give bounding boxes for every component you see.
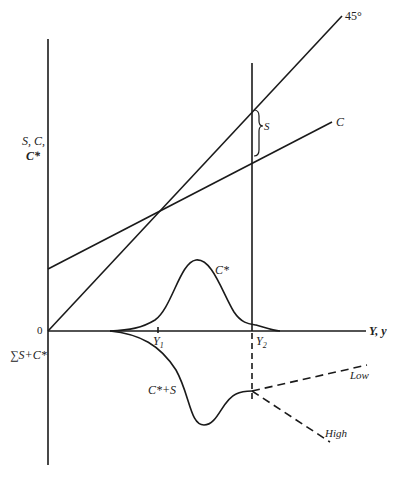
x-axis-label: Y, y — [369, 325, 387, 337]
diagram-svg — [0, 0, 397, 478]
cstar-plus-s-label: C*+S — [148, 384, 176, 396]
high-label: High — [325, 428, 347, 439]
y1-subscript: 1 — [160, 341, 164, 350]
cstar-plus-s-curve — [110, 331, 252, 425]
origin-label: 0 — [37, 325, 43, 336]
cstar-label: C* — [215, 264, 229, 276]
y-axis-label-2: C* — [26, 150, 40, 162]
high-dashed-line — [252, 391, 330, 442]
consumption-line — [48, 122, 332, 269]
saving-brace — [254, 110, 263, 156]
cstar-curve — [110, 260, 280, 331]
consumption-label: C — [336, 116, 344, 128]
line-45-label: 45° — [345, 10, 362, 22]
y2-subscript: 2 — [263, 341, 267, 350]
y2-label: Y2 — [256, 335, 267, 350]
y2-text: Y — [256, 334, 263, 348]
y1-label: Y1 — [153, 335, 164, 350]
y-axis-label-1: S, C, — [22, 135, 45, 147]
low-label: Low — [350, 370, 369, 381]
line-45-degree — [48, 16, 342, 331]
saving-label: S — [264, 121, 270, 132]
y1-text: Y — [153, 334, 160, 348]
diagram-canvas: S, C, C* 0 ∑S+C* Y, y 45° C S C* C*+S Y1… — [0, 0, 397, 478]
lower-axis-label: ∑S+C* — [10, 349, 47, 361]
